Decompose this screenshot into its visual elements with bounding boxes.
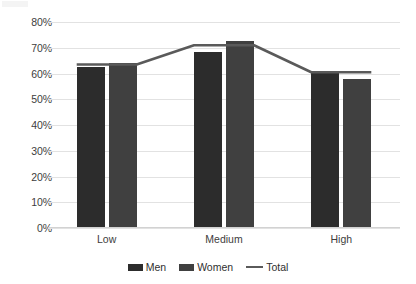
total-line-path (77, 45, 372, 72)
x-axis-label-low: Low (48, 232, 165, 246)
y-axis-tick-label: 80% (12, 17, 52, 27)
x-axis-label-high: High (283, 232, 400, 246)
scan-artifact (2, 1, 28, 7)
y-axis-tick-label: 70% (12, 43, 52, 53)
legend-square-swatch-icon (128, 264, 143, 271)
legend-item-total[interactable]: Total (246, 261, 288, 273)
gridline (48, 228, 400, 229)
x-axis-label-medium: Medium (165, 232, 282, 246)
legend-item-women[interactable]: Women (179, 261, 233, 273)
legend-line-swatch-icon (246, 266, 263, 268)
legend-label: Women (197, 261, 233, 273)
legend-square-swatch-icon (179, 264, 194, 271)
x-axis-category-labels: LowMediumHigh (48, 232, 400, 250)
y-axis-tick-label: 50% (12, 94, 52, 104)
y-axis-tick-label: 40% (12, 120, 52, 130)
y-axis-tick-label: 0% (12, 223, 52, 233)
y-axis-tick-label: 20% (12, 172, 52, 182)
legend-item-men[interactable]: Men (128, 261, 166, 273)
y-axis-tick-label: 30% (12, 146, 52, 156)
legend-label: Men (146, 261, 166, 273)
plot-area (48, 22, 400, 228)
y-axis-tick-label: 60% (12, 69, 52, 79)
x-axis-line (48, 227, 400, 228)
bar-chart: 0%10%20%30%40%50%60%70%80% LowMediumHigh… (0, 0, 416, 284)
chart-legend: MenWomenTotal (0, 258, 416, 276)
y-axis-tick-label: 10% (12, 197, 52, 207)
total-line-series (48, 22, 400, 228)
legend-label: Total (266, 261, 288, 273)
